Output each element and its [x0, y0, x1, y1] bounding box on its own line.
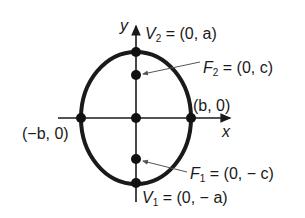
- v2-label: V2 = (0, a): [145, 26, 217, 44]
- f2-label: F2 = (0, c): [203, 60, 273, 78]
- right-vertex-label: (b, 0): [193, 98, 230, 114]
- left-vertex-point: [76, 113, 86, 123]
- y-axis-label: y: [120, 18, 128, 34]
- vertex-v1-point: [131, 178, 141, 188]
- vertex-v2-point: [131, 47, 141, 57]
- f1-label: F1 = (0, − c): [190, 166, 274, 184]
- center-point: [131, 113, 141, 123]
- x-axis-label: x: [222, 124, 230, 140]
- right-vertex-point: [186, 113, 196, 123]
- f2-leader-arrow-icon: [143, 62, 200, 74]
- focus-f2-point: [131, 70, 141, 80]
- left-vertex-label: (−b, 0): [22, 126, 69, 142]
- f1-leader-arrow-icon: [143, 161, 187, 172]
- focus-f1-point: [131, 154, 141, 164]
- v1-label: V1 = (0, − a): [142, 190, 228, 208]
